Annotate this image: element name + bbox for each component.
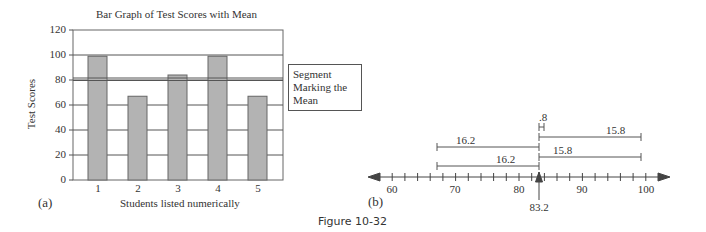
y-axis-title: Test Scores xyxy=(25,79,37,129)
mean-value-label: 83.2 xyxy=(524,201,554,213)
figure-caption: Figure 10-32 xyxy=(318,215,387,228)
x-tick-1: 1 xyxy=(88,182,108,194)
segment-label-small: .8 xyxy=(539,111,547,123)
bar-student-2 xyxy=(128,96,147,180)
x-axis-title: Students listed numerically xyxy=(120,197,240,209)
legend-line-1: Segment xyxy=(293,68,357,81)
y-tick-20: 20 xyxy=(42,148,66,160)
bar-student-1 xyxy=(88,56,107,180)
legend-line-2: Marking the xyxy=(293,81,357,94)
segment-label-upper-right: 15.8 xyxy=(606,124,625,136)
bar-chart-graphics xyxy=(0,0,706,232)
nl-tick-100: 100 xyxy=(631,183,661,195)
bar-student-5 xyxy=(248,96,267,180)
legend: Segment Marking the Mean xyxy=(288,64,362,111)
segment-label-lower-right: 15.8 xyxy=(553,144,572,156)
x-tick-4: 4 xyxy=(208,182,228,194)
panel-b-label: (b) xyxy=(368,194,383,210)
x-tick-2: 2 xyxy=(128,182,148,194)
panel-a-label: (a) xyxy=(38,195,52,211)
y-tick-100: 100 xyxy=(42,48,66,60)
y-tick-40: 40 xyxy=(42,123,66,135)
legend-line-3: Mean xyxy=(293,94,357,107)
x-tick-5: 5 xyxy=(248,182,268,194)
nl-tick-70: 70 xyxy=(440,183,470,195)
bar-student-3 xyxy=(168,75,187,180)
y-tick-60: 60 xyxy=(42,98,66,110)
left-arrow-icon xyxy=(368,173,380,181)
segment-label-upper-left: 16.2 xyxy=(456,134,475,146)
y-tick-0: 0 xyxy=(42,173,66,185)
segment-label-lower-left: 16.2 xyxy=(496,153,515,165)
y-tick-80: 80 xyxy=(42,73,66,85)
y-tick-120: 120 xyxy=(42,23,66,35)
nl-tick-80: 80 xyxy=(504,183,534,195)
bars xyxy=(88,56,267,180)
nl-tick-90: 90 xyxy=(567,183,597,195)
x-tick-3: 3 xyxy=(168,182,188,194)
right-arrow-icon xyxy=(658,173,670,181)
bar-student-4 xyxy=(208,56,227,180)
